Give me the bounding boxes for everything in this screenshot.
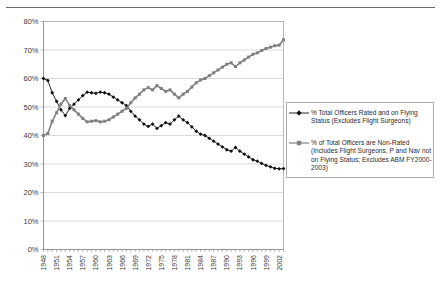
data-point-marker <box>90 91 94 95</box>
y-axis-label: 70% <box>23 46 38 55</box>
data-point-marker <box>182 93 185 96</box>
data-point-marker <box>125 107 128 110</box>
data-point-marker <box>225 63 228 66</box>
x-axis-label: 1972 <box>145 255 152 271</box>
data-point-marker <box>42 77 46 81</box>
data-point-marker <box>186 90 189 93</box>
data-point-marker <box>50 91 54 95</box>
x-axis-label: 1963 <box>106 255 113 271</box>
data-point-marker <box>59 103 62 106</box>
y-axis-label: 20% <box>23 188 38 197</box>
y-axis-label: 60% <box>23 74 38 83</box>
y-axis-label: 80% <box>23 17 38 26</box>
x-axis-label: 1999 <box>263 255 270 271</box>
data-point-marker <box>190 86 193 89</box>
data-point-marker <box>64 97 67 100</box>
data-point-marker <box>98 90 102 94</box>
data-point-marker <box>107 118 110 121</box>
data-point-marker <box>277 167 281 171</box>
data-point-marker <box>251 53 254 56</box>
data-point-marker <box>134 96 137 99</box>
y-axis-label: 0% <box>28 245 39 254</box>
x-axis-label: 1966 <box>119 255 126 271</box>
data-point-marker <box>247 56 250 59</box>
x-axis-label: 1975 <box>158 255 165 271</box>
data-point-marker <box>73 108 76 111</box>
y-axis-label: 50% <box>23 103 38 112</box>
data-point-marker <box>273 44 276 47</box>
x-axis-label: 1948 <box>40 255 47 271</box>
x-axis-label: 1981 <box>184 255 191 271</box>
data-point-marker <box>169 88 172 91</box>
y-axis-label: 40% <box>23 131 38 140</box>
x-axis-label: 1969 <box>132 255 139 271</box>
data-point-marker <box>256 51 259 54</box>
data-point-marker <box>177 96 180 99</box>
data-point-marker <box>142 88 145 91</box>
data-point-marker <box>269 165 273 169</box>
data-point-marker <box>147 86 150 89</box>
data-point-marker <box>68 104 71 107</box>
data-point-marker <box>173 93 176 96</box>
x-axis-label: 1996 <box>250 255 257 271</box>
data-point-marker <box>94 91 98 95</box>
data-point-marker <box>121 110 124 113</box>
x-axis-label: 1954 <box>66 255 73 271</box>
data-point-marker <box>77 113 80 116</box>
data-point-marker <box>238 61 241 64</box>
data-point-marker <box>273 166 277 170</box>
legend-label-rated: % Total Officers Rated and on Flying Sta… <box>311 109 431 126</box>
data-point-marker <box>221 66 224 69</box>
data-point-marker <box>160 87 163 90</box>
x-axis-label: 1978 <box>171 255 178 271</box>
data-point-marker <box>208 74 211 77</box>
data-point-marker <box>278 44 281 47</box>
x-axis-label: 1957 <box>79 255 86 271</box>
data-point-marker <box>269 46 272 49</box>
data-point-marker <box>230 61 233 64</box>
data-point-marker <box>212 71 215 74</box>
data-point-marker <box>234 65 237 68</box>
legend-label-nonrated: % of Total Officers are Non-Rated (Inclu… <box>311 139 433 173</box>
data-point-marker <box>243 58 246 61</box>
data-point-marker <box>138 93 141 96</box>
data-point-marker <box>203 77 206 80</box>
series-line-nonrated <box>44 40 284 136</box>
legend-marker-diamond-icon <box>289 109 309 117</box>
data-point-marker <box>116 113 119 116</box>
data-point-marker <box>265 47 268 50</box>
data-point-marker <box>199 78 202 81</box>
data-point-marker <box>195 81 198 84</box>
data-point-marker <box>51 120 54 123</box>
data-point-marker <box>55 111 58 114</box>
data-point-marker <box>90 120 93 123</box>
data-point-marker <box>46 79 50 83</box>
data-point-marker <box>155 84 158 87</box>
data-point-marker <box>99 120 102 123</box>
data-point-marker <box>146 124 150 128</box>
data-point-marker <box>103 120 106 123</box>
x-axis-label: 1960 <box>92 255 99 271</box>
data-point-marker <box>55 99 59 103</box>
data-point-marker <box>282 38 285 41</box>
data-point-marker <box>86 120 89 123</box>
y-axis-label: 30% <box>23 160 38 169</box>
data-point-marker <box>255 159 259 163</box>
x-axis-label: 1990 <box>223 255 230 271</box>
data-point-marker <box>151 88 154 91</box>
data-point-marker <box>217 68 220 71</box>
data-point-marker <box>81 117 84 120</box>
data-point-marker <box>260 49 263 52</box>
y-axis-label: 10% <box>23 217 38 226</box>
x-axis-label: 1951 <box>53 255 60 271</box>
x-axis-label: 2002 <box>276 255 283 271</box>
data-point-marker <box>112 115 115 118</box>
data-point-marker <box>164 90 167 93</box>
data-point-marker <box>94 119 97 122</box>
data-point-marker <box>282 167 286 171</box>
chart-legend: % Total Officers Rated and on Flying Sta… <box>286 102 434 178</box>
x-axis-label: 1987 <box>210 255 217 271</box>
data-point-marker <box>260 162 264 166</box>
data-point-marker <box>46 132 49 135</box>
data-point-marker <box>42 134 45 137</box>
